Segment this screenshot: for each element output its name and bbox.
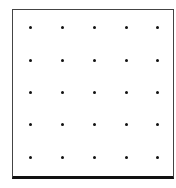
grid-dot[interactable] [156, 26, 159, 29]
grid-dot[interactable] [61, 26, 64, 29]
dot-grid-board [12, 9, 174, 179]
grid-dot[interactable] [61, 91, 64, 94]
grid-dot[interactable] [125, 26, 128, 29]
grid-dot[interactable] [156, 91, 159, 94]
grid-dot[interactable] [93, 26, 96, 29]
grid-dot[interactable] [156, 156, 159, 159]
grid-dot[interactable] [93, 156, 96, 159]
grid-dot[interactable] [61, 59, 64, 62]
grid-dot[interactable] [125, 59, 128, 62]
grid-dot[interactable] [93, 123, 96, 126]
grid-dot[interactable] [156, 123, 159, 126]
grid-dot[interactable] [29, 59, 32, 62]
grid-dot[interactable] [29, 156, 32, 159]
grid-dot[interactable] [125, 156, 128, 159]
grid-dot[interactable] [29, 123, 32, 126]
grid-dot[interactable] [156, 59, 159, 62]
grid-dot[interactable] [125, 123, 128, 126]
grid-dot[interactable] [29, 26, 32, 29]
grid-dot[interactable] [29, 91, 32, 94]
grid-dot[interactable] [61, 156, 64, 159]
grid-dot[interactable] [93, 59, 96, 62]
grid-dot[interactable] [125, 91, 128, 94]
grid-dot[interactable] [93, 91, 96, 94]
grid-dot[interactable] [61, 123, 64, 126]
